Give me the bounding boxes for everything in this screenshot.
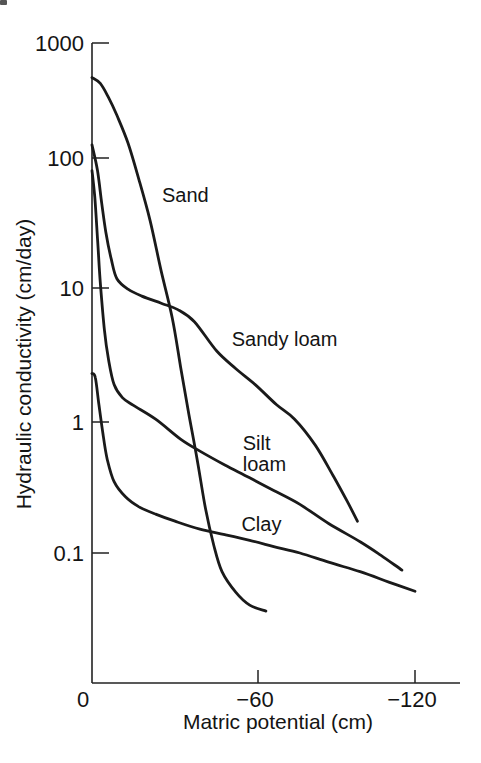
soil-hydraulic-conductivity-figure: 10001001010.10−60−120Matric potential (c…	[0, 0, 481, 763]
x-tick-label-0: 0	[77, 687, 89, 712]
hydraulic-conductivity-chart: 10001001010.10−60−120Matric potential (c…	[0, 0, 481, 763]
y-tick-label-10: 10	[60, 276, 84, 301]
x-axis-title: Matric potential (cm)	[183, 710, 373, 733]
label-sand: Sand	[162, 184, 209, 206]
y-tick-label-0.1: 0.1	[53, 541, 84, 566]
curve-silt-loam	[92, 171, 402, 570]
label-sandy-loam: Sandy loam	[232, 328, 338, 350]
y-tick-label-1000: 1000	[35, 31, 84, 56]
x-tick-label--120: −120	[387, 687, 437, 712]
y-axis-title: Hydraulic conductivity (cm/day)	[12, 219, 35, 510]
y-tick-label-100: 100	[47, 146, 84, 171]
label-clay: Clay	[241, 513, 281, 535]
label-silt-loam: Siltloam	[243, 432, 286, 475]
y-tick-label-1: 1	[72, 410, 84, 435]
scan-artifact-smudge	[0, 0, 7, 5]
curve-clay	[92, 374, 415, 592]
x-tick-label--60: −60	[236, 687, 273, 712]
